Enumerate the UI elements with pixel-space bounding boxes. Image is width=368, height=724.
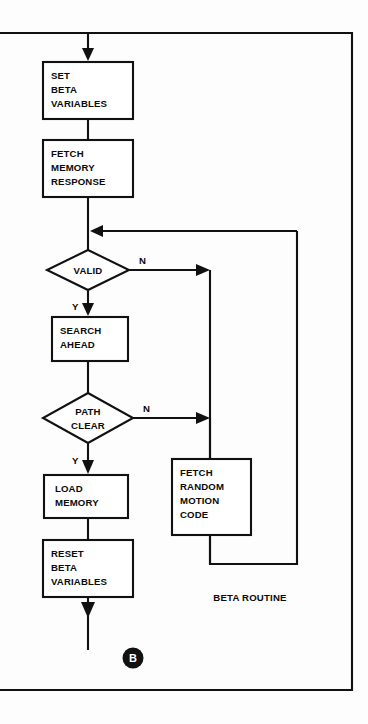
- path-clear-no-arrowhead-icon: [196, 412, 210, 424]
- exit-arrowhead-icon: [81, 602, 95, 618]
- entry-arrowhead-icon: [82, 48, 94, 61]
- branch-label-valid-yes: Y: [72, 301, 79, 312]
- node-path-clear-line-1: PATH: [75, 406, 100, 417]
- node-fetch-memory-response-line-2: MEMORY: [51, 162, 95, 173]
- branch-label-path-clear-yes: Y: [72, 455, 79, 466]
- node-set-beta-variables-line-2: BETA: [51, 84, 77, 95]
- connector-disc-label: B: [129, 652, 137, 664]
- figure-caption-beta-routine: BETA ROUTINE: [213, 592, 287, 603]
- branch-label-valid-no: N: [139, 255, 146, 266]
- branch-label-path-clear-no: N: [143, 403, 150, 414]
- node-fetch-memory-response-line-1: FETCH: [51, 148, 84, 159]
- node-set-beta-variables-line-3: VARIABLES: [51, 98, 108, 109]
- node-valid-label: VALID: [74, 265, 103, 276]
- node-reset-beta-variables-line-1: RESET: [51, 548, 84, 559]
- path-clear-yes-arrowhead-icon: [82, 460, 94, 474]
- node-reset-beta-variables-line-2: BETA: [51, 562, 77, 573]
- flowchart-canvas: SET BETA VARIABLES FETCH MEMORY RESPONSE…: [0, 0, 368, 724]
- valid-yes-arrowhead-icon: [82, 303, 94, 316]
- feedback-return-arrowhead-icon: [90, 225, 103, 237]
- node-load-memory-line-1: LOAD: [55, 483, 83, 494]
- flowchart-figure: SET BETA VARIABLES FETCH MEMORY RESPONSE…: [0, 0, 368, 724]
- node-fetch-memory-response-line-3: RESPONSE: [51, 176, 106, 187]
- node-fetch-random-motion-code-line-2: RANDOM: [180, 481, 224, 492]
- valid-no-arrowhead-icon: [196, 264, 210, 276]
- node-fetch-random-motion-code-line-3: MOTION: [180, 495, 219, 506]
- node-search-ahead-line-2: AHEAD: [60, 339, 95, 350]
- node-fetch-random-motion-code-line-4: CODE: [180, 509, 209, 520]
- node-load-memory-line-2: MEMORY: [55, 497, 99, 508]
- node-fetch-random-motion-code-line-1: FETCH: [180, 467, 213, 478]
- node-search-ahead-line-1: SEARCH: [60, 325, 101, 336]
- node-path-clear-line-2: CLEAR: [71, 420, 105, 431]
- node-reset-beta-variables-line-3: VARIABLES: [51, 576, 108, 587]
- node-set-beta-variables-line-1: SET: [51, 70, 70, 81]
- node-path-clear-shape: [43, 393, 133, 443]
